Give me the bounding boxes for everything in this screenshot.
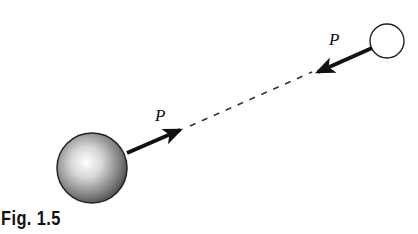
small-sphere [370,24,404,58]
line-of-action [190,72,312,126]
force-arrow-left [127,130,180,153]
force-label-left: P [154,106,165,125]
force-arrow-right [318,48,372,72]
large-sphere [57,133,127,203]
figure-caption: Fig. 1.5 [1,207,61,230]
two-particle-force-diagram: P P [0,0,418,234]
force-label-right: P [328,30,339,49]
